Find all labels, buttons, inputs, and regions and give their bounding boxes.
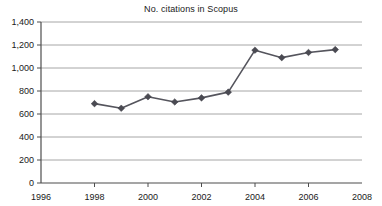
data-point-marker [198,95,205,102]
x-tick-label: 2006 [298,192,318,202]
series-line-citations [95,50,336,109]
x-tick-label: 2002 [191,192,211,202]
y-tick-label: 1,000 [11,63,34,73]
data-point-marker [91,100,98,107]
data-point-marker [171,99,178,106]
x-axis-ticks-group [95,183,309,187]
plot-area: 02004006008001,0001,2001,400 19961998200… [0,0,382,206]
x-tick-label: 2000 [138,192,158,202]
y-axis-labels-group: 02004006008001,0001,2001,400 [11,17,34,188]
y-tick-label: 200 [19,155,34,165]
y-tick-label: 1,200 [11,40,34,50]
x-tick-label: 1998 [84,192,104,202]
x-tick-label: 2004 [245,192,265,202]
data-point-marker [305,49,312,56]
chart-figure: No. citations in Scopus 02004006008001,0… [0,0,382,206]
line-chart-svg: 02004006008001,0001,2001,400 19961998200… [0,0,382,206]
y-tick-label: 800 [19,86,34,96]
y-tick-label: 0 [29,178,34,188]
data-point-marker [278,54,285,61]
series-markers-group [91,46,338,111]
y-tick-label: 1,400 [11,17,34,27]
data-point-marker [332,46,339,53]
y-tick-label: 400 [19,132,34,142]
y-tick-label: 600 [19,109,34,119]
data-point-marker [118,105,125,112]
x-tick-label: 2008 [352,192,372,202]
x-axis-labels-group: 1996199820002002200420062008 [31,192,372,202]
gridlines-group [41,22,362,160]
data-point-marker [145,93,152,100]
x-tick-label: 1996 [31,192,51,202]
